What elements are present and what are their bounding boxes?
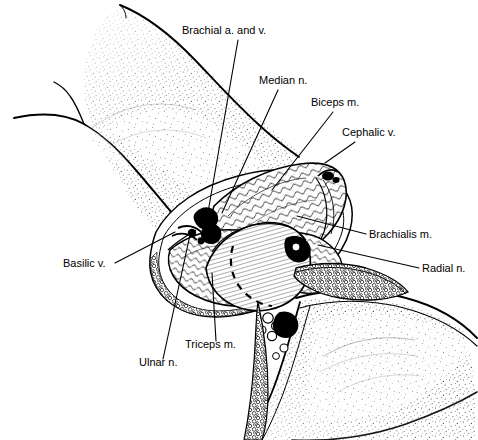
label-cephalic: Cephalic v. <box>342 126 396 138</box>
label-triceps: Triceps m. <box>185 338 236 350</box>
label-radial: Radial n. <box>422 262 465 274</box>
label-brachial: Brachial a. and v. <box>182 24 266 36</box>
label-biceps: Biceps m. <box>311 96 359 108</box>
label-basilic: Basilic v. <box>63 257 106 269</box>
label-median: Median n. <box>259 74 307 86</box>
anatomy-figure: Brachial a. and v.Median n.Biceps m.Ceph… <box>0 0 478 440</box>
anatomy-illustration: Brachial a. and v.Median n.Biceps m.Ceph… <box>0 0 478 440</box>
label-brachialis: Brachialis m. <box>369 228 432 240</box>
label-ulnar: Ulnar n. <box>139 356 178 368</box>
